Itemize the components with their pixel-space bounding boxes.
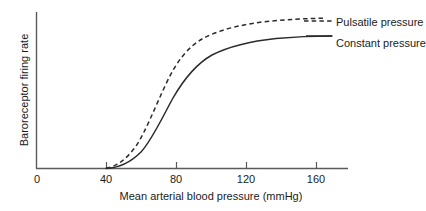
legend-label-constant-pressure: Constant pressure <box>336 38 426 49</box>
x-axis-title: Mean arterial blood pressure (mmHg) <box>0 190 422 202</box>
y-axis-title: Baroreceptor firing rate <box>6 14 20 166</box>
x-tick-label-120: 120 <box>237 174 255 185</box>
x-tick-label-80: 80 <box>170 174 182 185</box>
x-axis-ticks <box>107 162 317 169</box>
x-tick-label-0: 0 <box>34 174 40 185</box>
legend-label-pulsatile-pressure: Pulsatile pressure <box>336 17 423 28</box>
series-line-constant-pressure <box>106 36 332 169</box>
x-tick-label-160: 160 <box>307 174 325 185</box>
series-line-pulsatile-pressure <box>106 18 324 168</box>
y-axis-title-text: Baroreceptor firing rate <box>18 14 30 166</box>
x-tick-label-40: 40 <box>100 174 112 185</box>
